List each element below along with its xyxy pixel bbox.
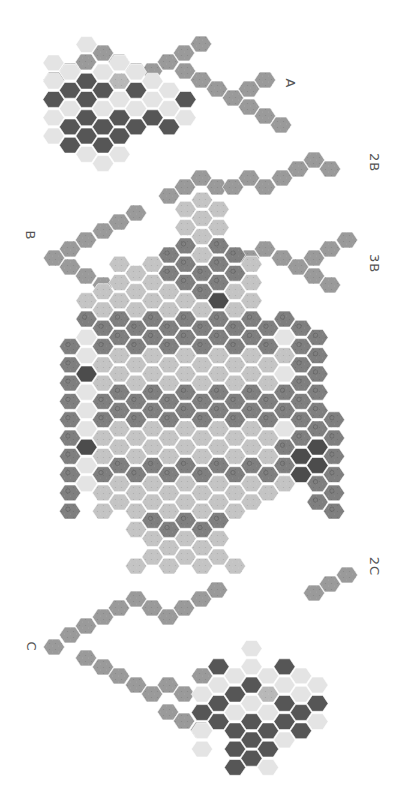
hex-texture bbox=[109, 256, 130, 272]
hex-texture bbox=[125, 205, 146, 221]
hex-texture bbox=[208, 384, 229, 400]
hex-texture bbox=[257, 320, 278, 336]
hex-diagram bbox=[0, 0, 407, 785]
cluster-2C-hex bbox=[191, 686, 212, 702]
hex-texture bbox=[191, 229, 212, 245]
hex-texture bbox=[142, 549, 163, 565]
cluster-2C-hex bbox=[274, 677, 295, 693]
hex-texture bbox=[290, 412, 311, 428]
hex-texture bbox=[142, 348, 163, 364]
hex-texture bbox=[125, 284, 146, 300]
label-3b: 3B bbox=[367, 254, 382, 273]
hex-texture bbox=[224, 357, 245, 373]
cluster-2B-hex bbox=[109, 146, 130, 162]
hex-texture bbox=[307, 421, 328, 437]
cluster-2C-hex bbox=[307, 677, 328, 693]
cluster-2B-hex bbox=[43, 110, 64, 126]
cluster-2C-hex bbox=[290, 686, 311, 702]
hex-texture bbox=[109, 476, 130, 492]
label-2c: 2C bbox=[367, 557, 382, 576]
label-b: B bbox=[23, 231, 38, 241]
hex-texture bbox=[208, 549, 229, 565]
hex-texture bbox=[257, 467, 278, 483]
hex-texture bbox=[109, 421, 130, 437]
hex-texture bbox=[208, 403, 229, 419]
hex-texture bbox=[190, 36, 211, 52]
cluster-2B-hex bbox=[125, 101, 146, 117]
cluster-2C-hex bbox=[191, 741, 212, 757]
body-hex bbox=[76, 366, 97, 382]
hex-texture bbox=[274, 403, 295, 419]
body-hex bbox=[76, 348, 97, 364]
cluster-2C-hex bbox=[241, 677, 262, 693]
label-c: C bbox=[24, 641, 39, 651]
hex-texture bbox=[92, 430, 113, 446]
hex-texture bbox=[191, 211, 212, 227]
hex-texture bbox=[142, 421, 163, 437]
hex-texture bbox=[323, 430, 344, 446]
cluster-2C-hex bbox=[290, 723, 311, 739]
cluster-2B-hex bbox=[76, 37, 97, 53]
hex-texture bbox=[224, 448, 245, 464]
label-2b: 2B bbox=[367, 153, 382, 172]
hex-texture bbox=[208, 201, 229, 217]
hex-texture bbox=[290, 430, 311, 446]
hex-texture bbox=[191, 430, 212, 446]
hex-texture bbox=[175, 403, 196, 419]
hex-texture bbox=[142, 403, 163, 419]
hex-texture bbox=[224, 339, 245, 355]
cluster-2B-hex bbox=[59, 82, 80, 98]
hex-texture bbox=[224, 430, 245, 446]
hex-texture bbox=[75, 650, 96, 666]
hex-texture bbox=[125, 503, 146, 519]
hex-texture bbox=[323, 448, 344, 464]
hex-texture bbox=[125, 339, 146, 355]
hex-texture bbox=[175, 293, 196, 309]
body-hex bbox=[76, 458, 97, 474]
cluster-2C-hex bbox=[241, 695, 262, 711]
hex-texture bbox=[241, 329, 262, 345]
hex-texture bbox=[224, 302, 245, 318]
cluster-2C-hex bbox=[257, 705, 278, 721]
body-hex bbox=[76, 421, 97, 437]
hex-texture bbox=[59, 375, 80, 391]
hex-texture bbox=[76, 293, 97, 309]
hex-texture bbox=[241, 494, 262, 510]
cluster-2B-hex bbox=[92, 101, 113, 117]
hex-texture bbox=[158, 448, 179, 464]
hex-texture bbox=[257, 485, 278, 501]
hex-texture bbox=[241, 476, 262, 492]
hex-texture bbox=[59, 503, 80, 519]
body-hex bbox=[76, 329, 97, 345]
hex-texture bbox=[109, 329, 130, 345]
hex-texture bbox=[158, 503, 179, 519]
cluster-2C-hex bbox=[274, 714, 295, 730]
hex-texture bbox=[191, 192, 212, 208]
body-hex bbox=[76, 384, 97, 400]
cluster-2C-hex bbox=[224, 760, 245, 776]
hex-texture bbox=[43, 639, 64, 655]
hex-texture bbox=[109, 384, 130, 400]
hex-texture bbox=[241, 348, 262, 364]
hex-texture bbox=[175, 238, 196, 254]
hex-texture bbox=[125, 467, 146, 483]
hex-texture bbox=[158, 558, 179, 574]
hex-texture bbox=[241, 421, 262, 437]
hex-texture bbox=[191, 412, 212, 428]
hex-texture bbox=[290, 394, 311, 410]
hex-texture bbox=[59, 430, 80, 446]
cluster-2C-hex bbox=[224, 686, 245, 702]
hex-texture bbox=[142, 256, 163, 272]
hex-texture bbox=[336, 232, 357, 248]
hex-texture bbox=[175, 220, 196, 236]
hex-texture bbox=[208, 275, 229, 291]
cluster-2B-hex bbox=[142, 110, 163, 126]
hex-texture bbox=[191, 668, 212, 684]
hex-texture bbox=[224, 558, 245, 574]
hex-texture bbox=[274, 384, 295, 400]
hex-texture bbox=[257, 686, 278, 702]
hex-texture bbox=[307, 329, 328, 345]
body-hex bbox=[290, 467, 311, 483]
cluster-2B-hex bbox=[158, 119, 179, 135]
hex-texture bbox=[92, 339, 113, 355]
